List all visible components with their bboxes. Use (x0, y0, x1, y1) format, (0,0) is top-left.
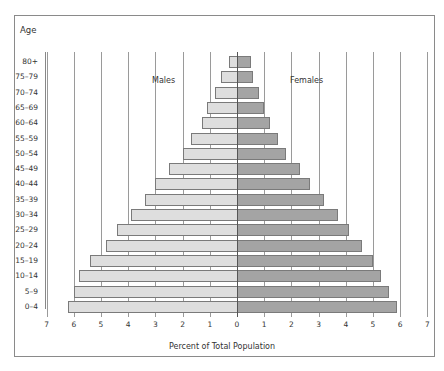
age-label: 35–39 (8, 195, 38, 205)
age-label: 60–64 (8, 118, 38, 128)
male-bar (215, 87, 238, 99)
female-bar (237, 194, 324, 206)
age-label: 50–54 (8, 149, 38, 159)
gridline (427, 52, 428, 317)
x-tick-label: 4 (339, 320, 353, 329)
x-tick-label: 6 (393, 320, 407, 329)
zero-axis-line (237, 52, 238, 317)
x-tick-label: 6 (67, 320, 81, 329)
age-label: 65–69 (8, 103, 38, 113)
female-bar (237, 117, 270, 129)
female-bar (237, 148, 286, 160)
x-tick-label: 1 (203, 320, 217, 329)
female-bar (237, 71, 253, 83)
x-tick-label: 3 (148, 320, 162, 329)
x-tick-label: 5 (94, 320, 108, 329)
female-bar (237, 209, 338, 221)
male-bar (90, 255, 238, 267)
male-bar (183, 148, 238, 160)
x-tick-label: 5 (366, 320, 380, 329)
male-bar (106, 240, 238, 252)
male-bar (68, 301, 238, 313)
female-bar (237, 301, 397, 313)
gridline (74, 52, 75, 317)
female-bar (237, 178, 310, 190)
male-bar (221, 71, 238, 83)
female-bar (237, 87, 259, 99)
female-bar (237, 240, 362, 252)
legend-females-label: Females (290, 76, 323, 85)
male-bar (207, 102, 238, 114)
male-bar (145, 194, 238, 206)
x-tick-label: 1 (257, 320, 271, 329)
male-bar (202, 117, 238, 129)
x-tick-label: 2 (284, 320, 298, 329)
age-label: 25–29 (8, 225, 38, 235)
age-label: 30–34 (8, 210, 38, 220)
female-bar (237, 133, 278, 145)
age-label: 20–24 (8, 241, 38, 251)
x-tick-label: 3 (312, 320, 326, 329)
legend-males-label: Males (152, 76, 175, 85)
age-label: 75–79 (8, 72, 38, 82)
gridline (400, 52, 401, 317)
age-label: 55–59 (8, 134, 38, 144)
female-bar (237, 56, 251, 68)
male-bar (191, 133, 238, 145)
gridline (47, 52, 48, 317)
x-tick-label: 4 (121, 320, 135, 329)
x-axis-title: Percent of Total Population (0, 342, 444, 351)
female-bar (237, 255, 373, 267)
male-bar (79, 270, 238, 282)
female-bar (237, 286, 389, 298)
x-tick-label: 7 (420, 320, 434, 329)
male-bar (131, 209, 238, 221)
age-label: 0–4 (8, 302, 38, 312)
x-tick-label: 2 (176, 320, 190, 329)
female-bar (237, 270, 381, 282)
female-bar (237, 102, 264, 114)
male-bar (155, 178, 238, 190)
y-axis-title: Age (20, 25, 36, 35)
age-label: 5–9 (8, 287, 38, 297)
x-tick-label: 0 (230, 320, 244, 329)
age-label: 15–19 (8, 256, 38, 266)
age-label: 40–44 (8, 179, 38, 189)
age-label: 10–14 (8, 271, 38, 281)
x-tick-label: 7 (40, 320, 54, 329)
age-label: 45–49 (8, 164, 38, 174)
male-bar (74, 286, 238, 298)
age-label: 70–74 (8, 88, 38, 98)
female-bar (237, 163, 300, 175)
female-bar (237, 224, 349, 236)
male-bar (169, 163, 238, 175)
age-label: 80+ (8, 57, 38, 67)
male-bar (117, 224, 238, 236)
